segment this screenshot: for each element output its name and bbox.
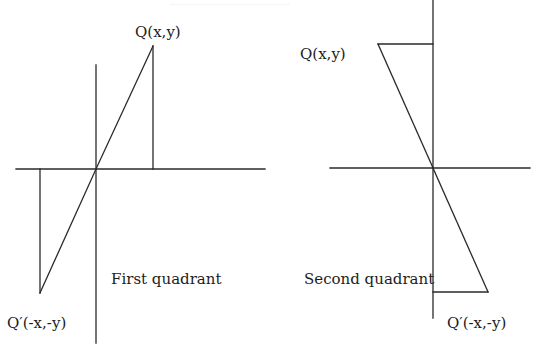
left-panel-first-quadrant: Q(x,y) Q′(-x,-y) First quadrant (7, 23, 265, 343)
right-segment-origin-to-q-prime (433, 168, 488, 292)
left-q-prime-label: Q′(-x,-y) (7, 314, 66, 332)
left-panel-caption: First quadrant (111, 270, 221, 288)
left-segment-origin-to-q-prime (40, 169, 96, 293)
right-panel-caption: Second quadrant (304, 270, 434, 288)
right-q-label: Q(x,y) (300, 45, 346, 63)
bleed-through-text (170, 4, 290, 5)
reflection-through-origin-diagram: Q(x,y) Q′(-x,-y) First quadrant Q(x,y) Q… (0, 0, 533, 356)
right-q-prime-label: Q′(-x,-y) (447, 314, 506, 332)
left-segment-origin-to-q (96, 46, 153, 169)
right-panel-second-quadrant: Q(x,y) Q′(-x,-y) Second quadrant (300, 0, 530, 332)
left-q-label: Q(x,y) (135, 23, 181, 41)
right-segment-q-to-origin (378, 44, 433, 168)
